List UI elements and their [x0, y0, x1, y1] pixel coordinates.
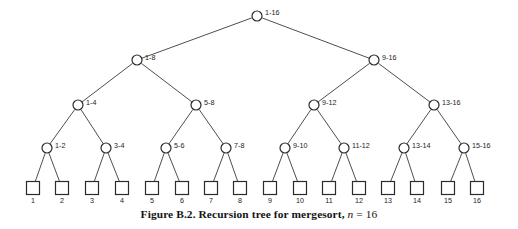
leaf-box-icon	[382, 182, 395, 195]
tree-leaf-15[interactable]: 15	[442, 182, 455, 206]
leaf-label: 12	[355, 196, 363, 205]
tree-node-3-4[interactable]: 3-4	[101, 141, 124, 153]
tree-edge	[451, 153, 462, 181]
tree-edge	[317, 110, 341, 144]
leaf-label: 5	[150, 196, 154, 205]
tree-edge	[49, 153, 60, 181]
figure-caption-math-rel: = 16	[356, 208, 377, 220]
node-circle-icon	[161, 143, 171, 153]
leaf-box-icon	[323, 182, 336, 195]
tree-leaf-6[interactable]: 6	[176, 182, 189, 206]
tree-edge	[288, 110, 311, 144]
node-label: 13-14	[412, 141, 430, 150]
tree-node-5-6[interactable]: 5-6	[161, 141, 184, 153]
leaf-box-icon	[234, 182, 247, 195]
node-label: 9-12	[322, 98, 336, 107]
node-label: 1-8	[145, 53, 155, 62]
tree-leaf-16[interactable]: 16	[471, 182, 484, 206]
tree-edge	[82, 63, 133, 102]
tree-leaf-3[interactable]: 3	[86, 182, 99, 206]
leaf-label: 8	[238, 196, 242, 205]
tree-node-1-2[interactable]: 1-2	[42, 141, 65, 153]
tree-edge	[108, 153, 119, 181]
tree-edge	[406, 153, 415, 181]
tree-node-13-16[interactable]: 13-16	[429, 98, 460, 110]
figure-caption-text: Recursion tree for mergesort,	[199, 208, 345, 220]
edge-layer	[35, 18, 475, 182]
leaf-label: 1	[31, 196, 35, 205]
leaf-label: 10	[296, 196, 304, 205]
tree-leaf-11[interactable]: 11	[323, 182, 336, 206]
leaf-label: 9	[268, 196, 272, 205]
tree-edge	[94, 153, 104, 181]
tree-leaf-4[interactable]: 4	[116, 182, 129, 206]
tree-edge	[141, 63, 192, 102]
node-label: 9-10	[293, 141, 307, 150]
tree-leaf-7[interactable]: 7	[205, 182, 218, 206]
tree-leaf-13[interactable]: 13	[382, 182, 395, 206]
tree-edge	[50, 110, 75, 144]
tree-leaf-5[interactable]: 5	[146, 182, 159, 206]
leaf-label: 3	[90, 196, 94, 205]
tree-leaf-14[interactable]: 14	[411, 182, 424, 206]
figure-caption-math-var: n	[348, 208, 354, 220]
node-circle-icon	[339, 143, 349, 153]
tree-edge	[35, 153, 45, 181]
leaf-label: 6	[180, 196, 184, 205]
tree-leaf-9[interactable]: 9	[264, 182, 277, 206]
tree-node-1-8[interactable]: 1-8	[132, 53, 155, 65]
node-label: 1-16	[265, 8, 279, 17]
tree-node-7-8[interactable]: 7-8	[221, 141, 244, 153]
tree-node-13-14[interactable]: 13-14	[399, 141, 430, 153]
leaf-box-icon	[471, 182, 484, 195]
leaf-box-icon	[27, 182, 40, 195]
tree-leaf-12[interactable]: 12	[353, 182, 366, 206]
node-label: 9-16	[382, 53, 396, 62]
tree-node-5-8[interactable]: 5-8	[191, 98, 214, 110]
tree-node-9-10[interactable]: 9-10	[280, 141, 307, 153]
node-label: 1-4	[86, 98, 96, 107]
leaf-box-icon	[205, 182, 218, 195]
tree-leaf-1[interactable]: 1	[27, 182, 40, 206]
tree-edge	[168, 153, 179, 181]
tree-node-9-12[interactable]: 9-12	[309, 98, 336, 110]
tree-node-9-16[interactable]: 9-16	[369, 53, 396, 65]
leaf-box-icon	[176, 182, 189, 195]
tree-edge	[466, 153, 475, 181]
tree-edge	[407, 110, 431, 144]
node-layer: 1-161-89-161-45-89-1213-161-23-45-67-89-…	[42, 8, 490, 153]
tree-edge	[142, 18, 252, 58]
node-circle-icon	[369, 55, 379, 65]
leaf-box-icon	[264, 182, 277, 195]
node-label: 13-16	[442, 98, 460, 107]
leaf-box-icon	[116, 182, 129, 195]
leaf-box-icon	[411, 182, 424, 195]
tree-leaf-10[interactable]: 10	[294, 182, 307, 206]
tree-edge	[81, 110, 103, 144]
tree-edge	[287, 153, 298, 181]
tree-edge	[378, 63, 430, 102]
tree-node-11-12[interactable]: 11-12	[339, 141, 370, 153]
node-label: 11-12	[352, 141, 370, 150]
node-circle-icon	[73, 100, 83, 110]
node-label: 7-8	[234, 141, 244, 150]
leaf-box-icon	[146, 182, 159, 195]
node-circle-icon	[459, 143, 469, 153]
node-label: 3-4	[114, 141, 124, 150]
figure-caption: Figure B.2. Recursion tree for mergesort…	[0, 208, 518, 220]
leaf-box-icon	[442, 182, 455, 195]
node-circle-icon	[429, 100, 439, 110]
leaf-label: 4	[120, 196, 124, 205]
leaf-label: 15	[444, 196, 452, 205]
figure-caption-label: Figure B.2.	[141, 208, 196, 220]
node-circle-icon	[309, 100, 319, 110]
leaf-box-icon	[86, 182, 99, 195]
tree-leaf-8[interactable]: 8	[234, 182, 247, 206]
tree-edge	[228, 153, 238, 181]
recursion-tree-diagram: 1-161-89-161-45-89-1213-161-23-45-67-89-…	[0, 0, 518, 229]
tree-leaf-2[interactable]: 2	[56, 182, 69, 206]
tree-edge	[154, 153, 164, 181]
node-circle-icon	[252, 11, 262, 21]
tree-node-15-16[interactable]: 15-16	[459, 141, 490, 153]
leaf-box-icon	[353, 182, 366, 195]
